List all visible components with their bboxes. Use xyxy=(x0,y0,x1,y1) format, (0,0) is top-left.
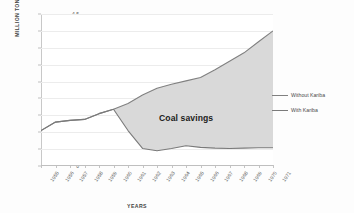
legend-line-swatch-icon xyxy=(272,110,288,111)
legend-line-swatch-icon xyxy=(272,95,288,96)
x-tick-label: 1961 xyxy=(136,170,147,183)
legend-label: Without Kariba xyxy=(291,92,325,98)
x-tick-label: 1971 xyxy=(281,170,292,183)
legend-item[interactable]: With Kariba xyxy=(272,107,352,113)
legend-label: With Kariba xyxy=(291,107,318,113)
x-tick-label: 1960 xyxy=(121,170,132,183)
x-tick-label: 1964 xyxy=(179,170,190,183)
x-tick-label: 1962 xyxy=(150,170,161,183)
x-tick-label: 1970 xyxy=(266,170,277,183)
chart-container: MILLION TONS 00.511.522.533.544.5 195519… xyxy=(0,0,354,213)
plot-area: Coal savings xyxy=(41,14,273,166)
x-tick-label: 1959 xyxy=(107,170,118,183)
x-tick-label: 1969 xyxy=(252,170,263,183)
x-axis-title: YEARS xyxy=(0,203,274,209)
x-tick-mark xyxy=(273,165,274,168)
chart-legend: Without KaribaWith Kariba xyxy=(272,92,352,122)
series-svg xyxy=(41,14,273,166)
coal-savings-annotation: Coal savings xyxy=(159,113,213,123)
x-tick-label: 1967 xyxy=(223,170,234,183)
x-tick-label: 1956 xyxy=(63,170,74,183)
legend-item[interactable]: Without Kariba xyxy=(272,92,352,98)
x-tick-label: 1963 xyxy=(165,170,176,183)
coal-savings-fill-region xyxy=(41,31,273,151)
x-tick-label: 1968 xyxy=(237,170,248,183)
x-tick-label: 1958 xyxy=(92,170,103,183)
y-axis-title: MILLION TONS xyxy=(14,0,20,52)
x-tick-label: 1957 xyxy=(78,170,89,183)
x-tick-label: 1965 xyxy=(194,170,205,183)
x-tick-label: 1966 xyxy=(208,170,219,183)
x-tick-label: 1955 xyxy=(49,170,60,183)
